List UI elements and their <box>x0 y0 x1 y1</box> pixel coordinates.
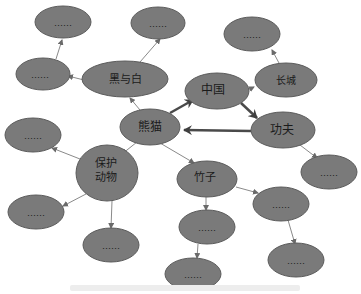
node-label-line-2: 动物 <box>95 170 117 184</box>
node-protected[interactable]: 保护 动物 <box>76 145 138 201</box>
node-label: …… <box>198 223 216 233</box>
edge-p9-p11 <box>197 244 198 258</box>
node-placeholder-p2[interactable]: …… <box>131 7 185 39</box>
node-label: …… <box>287 256 305 266</box>
node-label: 中国 <box>201 82 225 97</box>
node-placeholder-p7[interactable]: …… <box>8 195 64 229</box>
node-label: …… <box>272 200 290 210</box>
node-label: …… <box>243 30 261 40</box>
node-bamboo[interactable]: 竹子 <box>177 161 237 197</box>
edge-p3-p1 <box>56 40 62 59</box>
node-label: 熊猫 <box>138 119 162 134</box>
node-placeholder-p5[interactable]: …… <box>301 155 357 189</box>
node-label: 竹子 <box>194 170 216 184</box>
node-label: …… <box>31 70 49 80</box>
edge-p10-p12 <box>288 220 295 244</box>
edge-protected-p6 <box>52 148 80 159</box>
edge-protected-p7 <box>63 194 86 206</box>
edge-panda-bamboo <box>160 143 194 163</box>
node-label: …… <box>184 270 202 280</box>
node-placeholder-p4[interactable]: …… <box>224 17 280 51</box>
node-china[interactable]: 中国 <box>185 73 249 109</box>
node-blackwhite[interactable]: 黑与白 <box>82 61 168 97</box>
node-placeholder-p9[interactable]: …… <box>179 210 235 244</box>
node-label: 长城 <box>276 75 296 86</box>
edge-panda-china <box>170 100 193 113</box>
node-greatwall[interactable]: 长城 <box>255 63 317 97</box>
mind-map-diagram: …… …… …… …… …… …… …… …… <box>0 0 361 294</box>
node-panda[interactable]: 熊猫 <box>120 109 180 145</box>
node-placeholder-p8[interactable]: …… <box>83 228 139 262</box>
node-label: …… <box>102 241 120 251</box>
node-label: …… <box>320 168 338 178</box>
node-placeholder-p6[interactable]: …… <box>5 118 61 152</box>
edge-kungfu-p5 <box>300 145 317 158</box>
edge-china-kungfu <box>241 103 257 118</box>
node-label: …… <box>27 208 45 218</box>
node-label: …… <box>149 19 167 29</box>
edge-greatwall-p4 <box>272 50 279 63</box>
node-label: …… <box>24 131 42 141</box>
node-label: 功夫 <box>270 123 294 137</box>
edge-bamboo-p10 <box>236 187 258 193</box>
edge-kungfu-panda <box>184 130 251 131</box>
edge-blackwhite-p2 <box>140 39 160 62</box>
node-kungfu[interactable]: 功夫 <box>251 112 315 148</box>
figure-caption <box>70 285 300 291</box>
node-label: 黑与白 <box>109 72 142 86</box>
edge-protected-p8 <box>111 201 112 228</box>
node-placeholder-p12[interactable]: …… <box>268 243 324 277</box>
node-label-line-1: 保护 <box>95 156 117 170</box>
node-label: …… <box>54 18 72 28</box>
node-placeholder-p3[interactable]: …… <box>16 58 70 90</box>
edge-panda-blackwhite <box>130 98 140 110</box>
node-placeholder-p1[interactable]: …… <box>35 6 91 38</box>
node-placeholder-p10[interactable]: …… <box>253 187 309 221</box>
